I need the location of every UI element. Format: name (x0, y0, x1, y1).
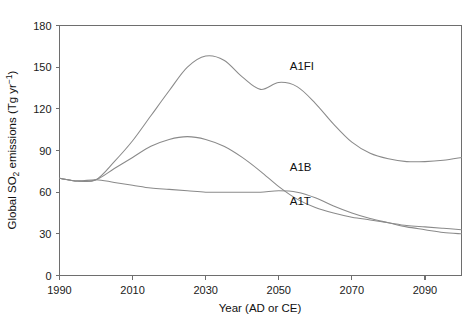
x-tick-label: 2030 (193, 284, 217, 296)
y-tick-label: 180 (33, 20, 51, 32)
x-axis-title: Year (AD or CE) (219, 302, 302, 314)
y-tick-label: 30 (39, 228, 51, 240)
chart-background (0, 0, 475, 321)
y-tick-label: 120 (33, 103, 51, 115)
so2-emissions-line-chart: 0306090120150180 19902010203020502070209… (0, 0, 475, 321)
y-title-sup: −1 (4, 74, 14, 84)
y-title-tail: ) (6, 70, 18, 74)
y-tick-label: 0 (45, 270, 51, 282)
series-label-a1t: A1T (290, 195, 311, 207)
y-tick-label: 90 (39, 145, 51, 157)
x-tick-label: 2070 (340, 284, 364, 296)
y-title-mid: emissions (Tg yr (6, 84, 18, 172)
series-label-a1fi: A1FI (290, 60, 314, 72)
figure-container: 0306090120150180 19902010203020502070209… (0, 0, 475, 321)
y-tick-label: 60 (39, 186, 51, 198)
y-title-lead: Global SO (6, 176, 18, 229)
x-tick-label: 1990 (47, 284, 71, 296)
x-tick-label: 2010 (120, 284, 144, 296)
series-label-a1b: A1B (290, 161, 312, 173)
x-tick-label: 2050 (267, 284, 291, 296)
x-tick-label: 2090 (413, 284, 437, 296)
y-tick-label: 150 (33, 61, 51, 73)
